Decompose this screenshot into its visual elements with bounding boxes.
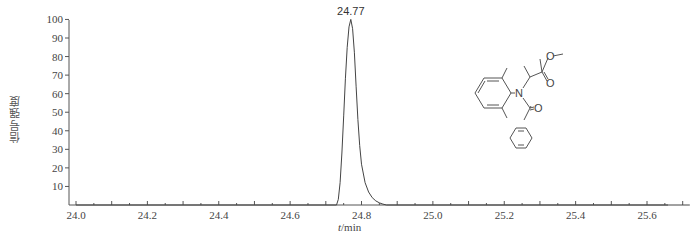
x-tick-label: 24.6 xyxy=(281,209,301,221)
molecule-atom-labels: N O O O xyxy=(515,50,555,114)
y-tick-label: 50 xyxy=(52,106,64,118)
y-tick-label: 10 xyxy=(52,180,64,192)
peak-label: 24.77 xyxy=(337,5,365,17)
x-tick-label: 25.6 xyxy=(637,209,657,221)
x-tick-label: 24.0 xyxy=(66,209,86,221)
x-tick-label: 25.4 xyxy=(566,209,586,221)
atom-o-ester: O xyxy=(546,50,555,62)
x-tick-label: 24.2 xyxy=(138,209,157,221)
x-ticks: 24.024.224.424.624.825.025.225.425.6 xyxy=(66,201,682,221)
chromatogram-trace xyxy=(76,19,690,205)
y-tick-label: 60 xyxy=(52,88,64,100)
axes xyxy=(69,20,668,205)
y-tick-label: 90 xyxy=(52,32,64,44)
y-tick-label: 100 xyxy=(47,13,64,25)
y-tick-label: 40 xyxy=(52,125,64,137)
atom-o-carbonyl: O xyxy=(546,77,555,89)
atom-o-amide: O xyxy=(534,102,543,114)
x-tick-label: 25.0 xyxy=(423,209,443,221)
y-axis-title: 信号强度 xyxy=(8,95,28,143)
x-axis-title-unit: /min xyxy=(341,221,361,233)
y-tick-label: 70 xyxy=(52,69,64,81)
molecule-structure xyxy=(475,54,563,148)
x-tick-label: 24.4 xyxy=(209,209,229,221)
x-tick-label: 25.2 xyxy=(495,209,514,221)
y-tick-label: 80 xyxy=(52,51,64,63)
x-tick-label: 24.8 xyxy=(352,209,372,221)
y-tick-label: 20 xyxy=(52,162,64,174)
y-tick-label: 30 xyxy=(52,143,64,155)
atom-n: N xyxy=(515,87,523,99)
chromatogram-chart: 102030405060708090100 24.024.224.424.624… xyxy=(0,0,700,243)
y-ticks: 102030405060708090100 xyxy=(47,13,70,192)
x-axis-title: t/min xyxy=(338,221,361,233)
